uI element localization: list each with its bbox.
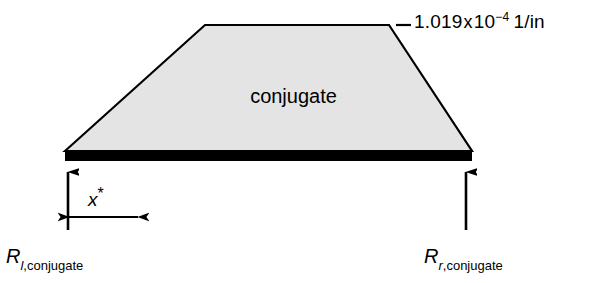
dimension-symbol: x <box>88 189 98 210</box>
reaction-left-subscript: l,conjugate <box>20 258 83 273</box>
conjugate-beam-bar <box>65 150 472 161</box>
reaction-label-right: Rr,conjugate <box>424 246 503 266</box>
dimension-label-x-star: x* <box>88 190 104 209</box>
reaction-right-subscript: r,conjugate <box>438 258 502 273</box>
load-intensity-label: 1.019x10−41/in <box>414 12 545 31</box>
reaction-left-subscript-rest: ,conjugate <box>23 258 83 273</box>
multiplication-sign: x <box>463 12 474 32</box>
load-intensity-unit: 1/in <box>509 11 544 32</box>
dimension-star-marker: * <box>98 185 104 202</box>
conjugate-beam-diagram: 1.019x10−41/in conjugate x* Rl,conjugate… <box>0 0 595 283</box>
load-intensity-base: 10 <box>474 11 496 32</box>
reaction-label-left: Rl,conjugate <box>6 246 83 266</box>
load-intensity-value: 1.019 <box>414 11 463 32</box>
load-intensity-exponent: −4 <box>495 10 509 24</box>
diagram-canvas <box>0 0 595 283</box>
region-label: conjugate <box>0 86 595 106</box>
reaction-right-symbol: R <box>424 245 438 267</box>
reaction-left-symbol: R <box>6 245 20 267</box>
region-label-text: conjugate <box>250 85 337 107</box>
reaction-right-subscript-rest: ,conjugate <box>443 258 503 273</box>
